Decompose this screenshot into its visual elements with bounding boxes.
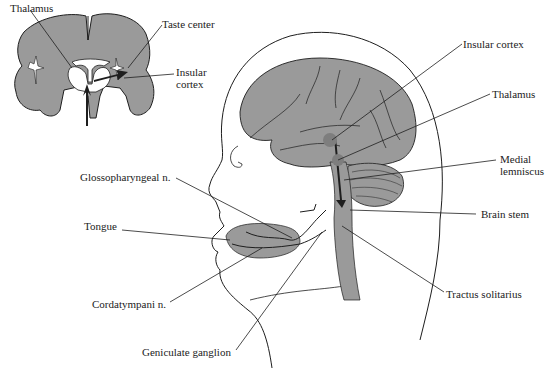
label-brain-stem: Brain stem bbox=[481, 208, 529, 220]
label-medial-lemniscus-line2: lemniscus bbox=[500, 165, 544, 177]
cerebrum bbox=[240, 58, 416, 167]
label-medial-lemniscus-line1: Medial bbox=[500, 153, 531, 165]
label-thalamus: Thalamus bbox=[492, 88, 535, 100]
cerebellum bbox=[346, 163, 404, 206]
label-inset-insular-line1: Insular bbox=[176, 66, 207, 78]
label-inset-thalamus: Thalamus bbox=[10, 2, 53, 14]
label-tractus-solitarius: Tractus solitarius bbox=[446, 288, 522, 300]
insular-region bbox=[323, 133, 337, 147]
label-cordatympani: Cordatympani n. bbox=[92, 298, 166, 310]
leader-tongue bbox=[122, 230, 230, 240]
label-tongue: Tongue bbox=[84, 220, 117, 232]
label-inset-taste-center: Taste center bbox=[162, 18, 215, 30]
label-glossopharyngeal: Glossopharyngeal n. bbox=[80, 171, 170, 183]
leader-brain-stem bbox=[350, 210, 476, 214]
taste-pathway-diagram bbox=[0, 0, 551, 368]
coronal-brain-section bbox=[15, 10, 174, 126]
label-geniculate-ganglion: Geniculate ganglion bbox=[142, 346, 231, 358]
label-inset-insular-line2: cortex bbox=[176, 78, 203, 90]
leader-tractus-solitarius bbox=[342, 226, 444, 292]
nose bbox=[231, 146, 242, 167]
label-insular-cortex: Insular cortex bbox=[463, 38, 524, 50]
tongue bbox=[226, 224, 300, 259]
